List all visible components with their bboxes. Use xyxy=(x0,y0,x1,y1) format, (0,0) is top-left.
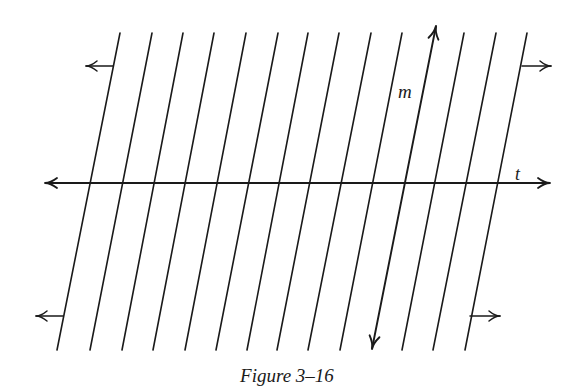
parallel-line xyxy=(465,33,527,350)
parallel-line xyxy=(433,33,496,350)
parallel-line xyxy=(185,33,246,350)
parallel-line xyxy=(90,33,152,350)
parallel-line xyxy=(340,33,402,350)
parallel-line xyxy=(308,33,371,350)
line-m-segment xyxy=(372,26,436,349)
plane-arrows-group xyxy=(36,61,551,321)
parallel-line xyxy=(122,33,183,350)
parallel-line xyxy=(216,33,278,350)
figure-caption: Figure 3–16 xyxy=(239,365,334,386)
parallel-line xyxy=(153,33,214,350)
line-t xyxy=(45,178,550,188)
parallel-line xyxy=(57,33,120,350)
parallel-lines-figure: m t Figure 3–16 xyxy=(0,0,577,390)
parallel-lines-group xyxy=(57,33,527,350)
parallel-line xyxy=(277,33,339,350)
parallel-line xyxy=(247,33,308,350)
line-m xyxy=(370,26,439,349)
label-t: t xyxy=(515,164,521,184)
label-m: m xyxy=(398,81,412,102)
